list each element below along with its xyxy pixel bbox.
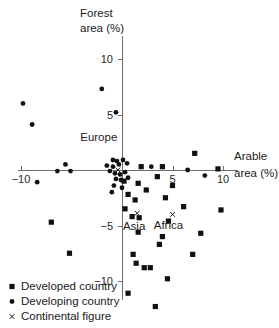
data-point bbox=[125, 291, 130, 296]
data-point bbox=[119, 178, 124, 183]
legend-item-circle[interactable]: Developing country bbox=[10, 295, 120, 307]
legend-label: Developing country bbox=[21, 295, 120, 307]
data-point bbox=[149, 164, 154, 169]
data-point bbox=[126, 175, 131, 180]
data-point bbox=[104, 163, 109, 168]
y-tick-label: −5 bbox=[100, 220, 113, 232]
data-point bbox=[114, 176, 119, 181]
annotation-europe: Europe bbox=[80, 131, 117, 143]
y-axis-title-line1: Forest bbox=[80, 7, 113, 19]
data-point bbox=[139, 164, 144, 169]
data-point bbox=[142, 265, 147, 270]
data-point bbox=[192, 151, 197, 156]
data-point bbox=[114, 110, 119, 115]
data-point bbox=[49, 220, 54, 225]
data-point bbox=[157, 242, 162, 247]
data-point bbox=[111, 164, 116, 169]
data-point bbox=[68, 169, 73, 174]
x-tick-label: 10 bbox=[217, 173, 229, 185]
data-point bbox=[107, 169, 112, 174]
data-point bbox=[160, 164, 165, 169]
data-point bbox=[122, 206, 127, 211]
data-point bbox=[130, 214, 135, 219]
data-point bbox=[160, 234, 165, 239]
legend-label: Continental figure bbox=[21, 310, 111, 322]
data-point bbox=[198, 231, 203, 236]
x-axis-title-line2: area (%) bbox=[234, 167, 278, 179]
y-tick-label: 5 bbox=[107, 109, 113, 121]
x-axis-title-line1: Arable bbox=[234, 150, 267, 162]
data-point bbox=[125, 192, 130, 197]
data-point bbox=[155, 174, 160, 179]
legend-marker-circle-icon bbox=[10, 299, 15, 304]
data-point bbox=[153, 304, 158, 309]
legend-group: Developed countryDeveloping countryConti… bbox=[9, 280, 119, 322]
legend-marker-square-icon bbox=[9, 284, 14, 289]
axes-group bbox=[18, 36, 238, 300]
legend-item-square[interactable]: Developed country bbox=[9, 280, 117, 292]
data-point bbox=[21, 101, 26, 106]
legend-label: Developed country bbox=[21, 280, 117, 292]
data-point bbox=[144, 187, 149, 192]
data-point bbox=[170, 212, 175, 217]
legend-item-cross[interactable]: Continental figure bbox=[10, 310, 112, 322]
data-point bbox=[202, 173, 207, 178]
data-point bbox=[170, 183, 175, 188]
scatter-chart: −10510105−5−10 EuropeAsiaAfrica Forestar… bbox=[0, 0, 279, 328]
x-tick-label: −10 bbox=[12, 173, 31, 185]
data-point bbox=[133, 197, 138, 202]
data-point bbox=[30, 122, 35, 127]
data-point bbox=[136, 181, 141, 186]
y-axis-title-line2: area (%) bbox=[80, 22, 124, 34]
data-point bbox=[163, 195, 168, 200]
legend-marker-cross-icon bbox=[10, 314, 15, 319]
data-point bbox=[148, 265, 153, 270]
data-point bbox=[35, 180, 40, 185]
annotation-asia: Asia bbox=[123, 220, 146, 232]
data-point bbox=[135, 211, 140, 216]
data-point bbox=[67, 251, 72, 256]
annotation-africa: Africa bbox=[154, 219, 184, 231]
data-point bbox=[165, 276, 170, 281]
data-point bbox=[99, 87, 104, 92]
data-point bbox=[131, 252, 136, 257]
data-point bbox=[190, 252, 195, 257]
y-tick-label: 10 bbox=[101, 53, 113, 65]
plot-canvas: −10510105−5−10 EuropeAsiaAfrica Forestar… bbox=[0, 0, 279, 328]
data-point bbox=[215, 166, 220, 171]
data-point bbox=[121, 158, 126, 163]
data-point bbox=[111, 158, 116, 163]
data-point bbox=[125, 161, 130, 166]
data-point bbox=[134, 261, 139, 266]
data-point bbox=[55, 169, 60, 174]
data-point bbox=[110, 190, 115, 195]
axis-titles-group: Forestarea (%)Arablearea (%) bbox=[80, 7, 278, 179]
data-point bbox=[185, 168, 190, 173]
data-point bbox=[181, 204, 186, 209]
data-point bbox=[117, 162, 122, 167]
data-point bbox=[218, 207, 223, 212]
data-point bbox=[63, 162, 68, 167]
data-point bbox=[123, 170, 128, 175]
data-point bbox=[112, 183, 117, 188]
data-point bbox=[118, 172, 123, 177]
data-point bbox=[120, 185, 125, 190]
